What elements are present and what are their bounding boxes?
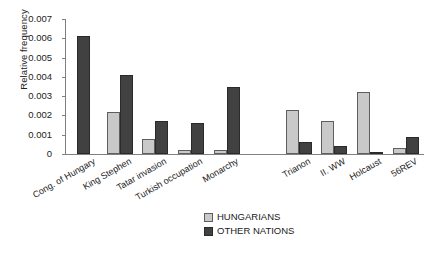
bar-oth xyxy=(120,75,133,154)
plot-area: 0.0070.0060.0050.0040.0030.0020.0010 xyxy=(66,19,424,154)
y-axis-tick-label: 0.003 xyxy=(6,90,52,101)
bar-hun xyxy=(178,150,191,154)
bar-hun xyxy=(107,112,120,154)
y-axis-tick-label: 0.001 xyxy=(6,129,52,140)
bar-group xyxy=(352,19,388,154)
legend-item: HUNGARIANS xyxy=(204,210,294,224)
bar-group xyxy=(317,19,353,154)
legend-swatch-hun xyxy=(204,213,213,222)
bar-group xyxy=(245,19,281,154)
bar-oth xyxy=(406,137,419,154)
bar-group xyxy=(66,19,102,154)
bar-oth xyxy=(299,142,312,154)
legend-label: OTHER NATIONS xyxy=(217,224,294,238)
bar-group xyxy=(281,19,317,154)
bar-oth xyxy=(370,152,383,154)
bar-group xyxy=(209,19,245,154)
y-axis-tick xyxy=(62,154,66,155)
bar-hun xyxy=(142,139,155,154)
bar-oth xyxy=(155,121,168,154)
bar-hun xyxy=(393,148,406,154)
y-axis-tick-label: 0.004 xyxy=(6,71,52,82)
bar-group xyxy=(388,19,424,154)
bar-hun xyxy=(357,92,370,154)
legend-item: OTHER NATIONS xyxy=(204,224,294,238)
y-axis-tick-label: 0.007 xyxy=(6,13,52,24)
y-axis-tick-label: 0.006 xyxy=(6,32,52,43)
bar-hun xyxy=(321,121,334,154)
bar-group xyxy=(138,19,174,154)
x-axis-category-label: II. WW xyxy=(169,156,347,253)
bar-group xyxy=(102,19,138,154)
bar-chart: Relative frequency 0.0070.0060.0050.0040… xyxy=(0,0,434,253)
y-axis-tick-label: 0.002 xyxy=(6,109,52,120)
bar-hun xyxy=(214,150,227,154)
bar-oth xyxy=(77,36,90,154)
chart-legend: HUNGARIANSOTHER NATIONS xyxy=(204,210,294,238)
bar-groups xyxy=(66,19,424,154)
bar-group xyxy=(173,19,209,154)
x-axis-line xyxy=(65,154,424,155)
legend-label: HUNGARIANS xyxy=(217,210,280,224)
legend-swatch-oth xyxy=(204,227,213,236)
y-axis-tick-label: 0 xyxy=(6,148,52,159)
y-axis-tick-label: 0.005 xyxy=(6,52,52,63)
bar-hun xyxy=(286,110,299,154)
bar-oth xyxy=(334,146,347,154)
bar-oth xyxy=(191,123,204,154)
bar-oth xyxy=(227,87,240,155)
